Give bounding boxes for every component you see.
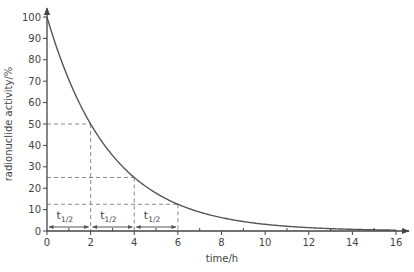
x-tick-label: 16	[390, 237, 403, 248]
y-tick-label: 100	[22, 12, 41, 23]
y-tick-label: 20	[28, 183, 41, 194]
half-life-label: t1/2	[57, 209, 74, 224]
x-axis-label: time/h	[206, 253, 238, 264]
activity-curve	[47, 17, 396, 230]
y-tick-label: 50	[28, 119, 41, 130]
x-tick-label: 8	[218, 237, 224, 248]
x-tick-label: 14	[346, 237, 359, 248]
x-tick-label: 4	[131, 237, 137, 248]
half-life-annotations: t1/2t1/2t1/2	[49, 209, 176, 227]
y-tick-label: 0	[35, 226, 41, 237]
x-tick-label: 10	[259, 237, 272, 248]
decay-chart: 01020304050607080901000246810121416 t1/2…	[0, 0, 414, 272]
y-tick-label: 10	[28, 204, 41, 215]
y-tick-label: 90	[28, 33, 41, 44]
x-tick-label: 0	[44, 237, 50, 248]
x-tick-label: 6	[175, 237, 181, 248]
half-life-label: t1/2	[100, 209, 117, 224]
x-tick-label: 12	[302, 237, 315, 248]
y-axis-label: radionuclide activity/%	[3, 67, 14, 182]
y-tick-label: 40	[28, 140, 41, 151]
y-tick-label: 80	[28, 54, 41, 65]
half-life-label: t1/2	[144, 209, 161, 224]
decay-curve	[47, 17, 396, 230]
x-tick-label: 2	[87, 237, 93, 248]
y-tick-label: 70	[28, 76, 41, 87]
y-tick-label: 60	[28, 97, 41, 108]
y-tick-label: 30	[28, 161, 41, 172]
axes: 01020304050607080901000246810121416	[22, 8, 409, 248]
